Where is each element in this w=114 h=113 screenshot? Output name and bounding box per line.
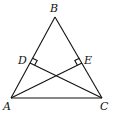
triangle-figure: B D E A C <box>0 0 114 113</box>
segment-cd <box>30 63 102 98</box>
label-e: E <box>83 54 92 67</box>
label-d: D <box>17 54 27 67</box>
geometry-diagram: B D E A C <box>0 0 114 113</box>
label-b: B <box>49 2 58 15</box>
label-c: C <box>100 100 109 113</box>
segment-ae <box>11 63 82 98</box>
segment-bc <box>55 17 102 98</box>
label-a: A <box>2 100 11 113</box>
